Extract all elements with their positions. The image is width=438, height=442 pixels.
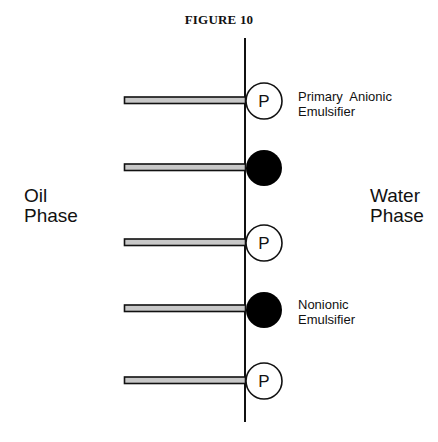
molecule-4-nonionic — [125, 292, 283, 328]
molecule-5-primary-anionic: P — [125, 363, 283, 399]
filled-head-icon — [246, 150, 282, 186]
molecule-2-nonionic — [125, 150, 283, 186]
filled-head-icon — [246, 292, 282, 328]
hydrophobic-tail — [125, 377, 246, 384]
head-label: P — [258, 234, 269, 253]
head-label: P — [258, 92, 269, 111]
head-label: P — [258, 372, 269, 391]
molecule-1-primary-anionic: P — [125, 83, 283, 119]
hydrophobic-tail — [125, 305, 246, 312]
hydrophobic-tail — [125, 97, 246, 104]
hydrophobic-tail — [125, 239, 246, 246]
hydrophobic-tail — [125, 164, 246, 171]
emulsifier-diagram: P P P — [0, 0, 438, 442]
molecule-3-primary-anionic: P — [125, 225, 283, 261]
